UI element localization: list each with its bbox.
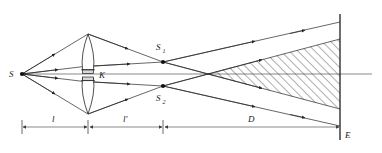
label-dim-lprime: l' [123,114,129,124]
image-point-S1 [161,60,165,64]
optics-figure: S K S 1 S 2 E l l' D [0,0,382,153]
label-image-S1-subscript: 1 [163,48,166,54]
lens-half-lower [82,78,94,114]
source-point-S [20,72,24,76]
ray-bundle-upper-incident [22,34,88,74]
label-image-S2: S [156,93,161,103]
dimension-image-distance: l' [90,114,163,134]
label-image-S1: S [156,42,161,52]
ray-bundle-lower-incident [22,74,88,114]
label-screen-E: E [344,130,351,140]
label-dim-D: D [247,114,255,124]
ray-diagram-canvas: S K S 1 S 2 E l l' D [0,0,382,153]
ray-bundle-lower-refracted [88,82,163,114]
ray-bundle-upper-refracted [88,34,163,66]
central-stop-K [81,70,95,81]
dimension-object-distance: l [22,114,88,134]
label-stop-K: K [98,70,106,80]
label-dim-l: l [52,114,55,124]
label-source-S: S [9,69,14,79]
label-image-S2-subscript: 2 [163,99,166,105]
image-point-S2 [161,84,165,88]
dimension-screen-distance: D [165,114,339,127]
lens-half-upper [82,34,94,70]
